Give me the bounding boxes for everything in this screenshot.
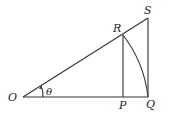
label-Q: Q	[146, 98, 155, 111]
label-S: S	[144, 4, 152, 17]
label-P: P	[118, 99, 127, 112]
geometry-diagram: O θ R S P Q	[0, 0, 171, 115]
arc-RQ	[123, 35, 148, 97]
label-O: O	[8, 91, 17, 104]
label-R: R	[112, 22, 121, 35]
label-theta: θ	[46, 86, 52, 97]
segment-OS	[23, 18, 148, 97]
